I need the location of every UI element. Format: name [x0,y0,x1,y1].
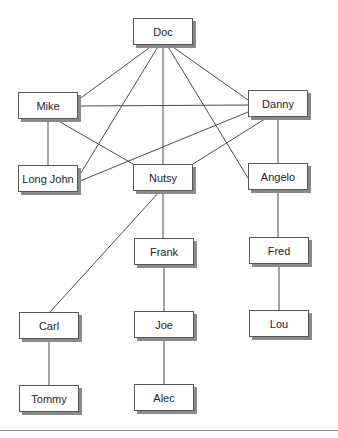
node-label: Doc [153,26,173,38]
node-label: Danny [262,98,294,110]
node-alec: Alec [134,384,194,411]
node-frank: Frank [134,238,194,265]
node-label: Mike [36,100,59,112]
node-nutsy: Nutsy [133,164,193,191]
node-label: Long John [22,173,73,185]
node-danny: Danny [248,90,308,117]
bottom-divider [0,430,338,431]
network-diagram: Doc Mike Danny Long John Nutsy Angelo Fr… [0,0,338,438]
node-label: Fred [268,245,291,257]
node-mike: Mike [18,92,78,119]
edge-doc-danny [170,45,248,100]
edge-danny-nutsy [193,117,268,164]
node-label: Tommy [31,393,66,405]
edge-mike-nutsy [55,119,133,164]
node-angelo: Angelo [248,163,308,190]
node-label: Lou [270,318,288,330]
node-tommy: Tommy [19,385,79,412]
node-long-john: Long John [18,165,78,192]
edges-layer [0,0,338,438]
node-label: Angelo [261,171,295,183]
edge-doc-angelo [167,45,248,178]
node-joe: Joe [134,311,194,338]
node-label: Frank [150,246,178,258]
node-doc: Doc [133,18,193,45]
node-label: Nutsy [149,172,177,184]
node-label: Carl [39,320,59,332]
node-fred: Fred [249,237,309,264]
node-carl: Carl [19,312,79,339]
node-label: Alec [153,392,174,404]
node-label: Joe [155,319,173,331]
edge-mike-danny [78,105,248,106]
node-lou: Lou [249,310,309,337]
